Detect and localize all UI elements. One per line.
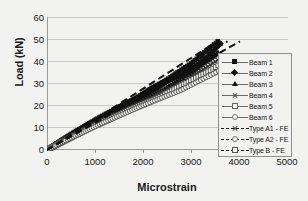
x-axis-title: Microstrain <box>47 181 287 193</box>
x-tick-label-1000: 1000 <box>75 157 115 166</box>
x-tick-label-4000: 4000 <box>219 157 259 166</box>
legend-key-open-circle-icon <box>221 112 249 123</box>
y-tick-label-0: 0 <box>18 145 44 154</box>
legend-item-beam-4[interactable]: Beam 4 <box>221 90 289 101</box>
x-tick-label-2000: 2000 <box>123 157 163 166</box>
legend-item-beam-3[interactable]: Beam 3 <box>221 79 289 90</box>
legend-key-filled-diamond-icon <box>221 68 249 79</box>
y-tick-label-10: 10 <box>18 123 44 132</box>
legend-item-beam-6[interactable]: Beam 6 <box>221 112 289 123</box>
y-tick-label-60: 60 <box>18 13 44 22</box>
legend-item-type-a2-fe[interactable]: Type A2 - FE <box>221 134 289 145</box>
y-tick-label-30: 30 <box>18 79 44 88</box>
chart-legend: Beam 1 Beam 2 Beam 3 Beam 4 Beam 5 <box>218 53 292 157</box>
legend-label: Beam 1 <box>249 59 273 66</box>
legend-item-type-a1-fe[interactable]: Type A1 - FE <box>221 123 289 134</box>
legend-key-cross-icon <box>221 90 249 101</box>
chart-container: Load (kN) 60 50 40 30 20 10 0 0 1000 200… <box>0 0 308 201</box>
legend-item-type-b-fe[interactable]: Type B - FE <box>221 145 289 156</box>
y-tick-label-20: 20 <box>18 101 44 110</box>
legend-label: Beam 2 <box>249 70 273 77</box>
y-tick-label-40: 40 <box>18 57 44 66</box>
legend-key-open-square-icon <box>221 101 249 112</box>
legend-key-dashed-circle-icon <box>221 134 249 145</box>
legend-label: Beam 3 <box>249 81 273 88</box>
legend-label: Type A1 - FE <box>249 125 288 132</box>
legend-item-beam-1[interactable]: Beam 1 <box>221 57 289 68</box>
legend-key-filled-square-icon <box>221 57 249 68</box>
legend-key-filled-triangle-icon <box>221 79 249 90</box>
legend-item-beam-5[interactable]: Beam 5 <box>221 101 289 112</box>
legend-key-dashed-cross-icon <box>221 123 249 134</box>
legend-label: Beam 5 <box>249 103 273 110</box>
x-tick-label-5000: 5000 <box>267 157 307 166</box>
y-tick-label-50: 50 <box>18 35 44 44</box>
x-tick-label-3000: 3000 <box>171 157 211 166</box>
legend-item-beam-2[interactable]: Beam 2 <box>221 68 289 79</box>
legend-key-dashed-square-icon <box>221 145 249 156</box>
legend-label: Type A2 - FE <box>249 136 288 143</box>
x-tick-label-0: 0 <box>27 157 67 166</box>
legend-label: Beam 4 <box>249 92 273 99</box>
legend-label: Type B - FE <box>249 147 285 154</box>
legend-label: Beam 6 <box>249 114 273 121</box>
